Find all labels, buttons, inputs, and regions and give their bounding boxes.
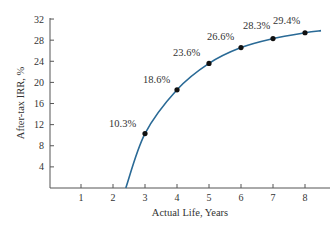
x-tick-label: 4 bbox=[175, 192, 180, 203]
y-tick-label: 32 bbox=[34, 14, 44, 25]
y-tick-label: 24 bbox=[34, 56, 44, 67]
y-axis: 48121620242832 bbox=[34, 14, 54, 188]
y-tick-label: 20 bbox=[34, 77, 44, 88]
data-label: 10.3% bbox=[109, 118, 136, 129]
data-point bbox=[142, 131, 147, 136]
chart: 48121620242832 12345678 Actual Life, Yea… bbox=[0, 0, 336, 233]
data-label: 23.6% bbox=[173, 47, 200, 58]
x-tick-label: 7 bbox=[271, 192, 276, 203]
y-tick-label: 16 bbox=[34, 98, 44, 109]
data-label: 29.4% bbox=[273, 15, 300, 26]
data-point bbox=[302, 30, 307, 35]
x-axis: 12345678 bbox=[50, 184, 330, 203]
y-tick-label: 4 bbox=[39, 161, 44, 172]
y-tick-label: 28 bbox=[34, 35, 44, 46]
data-point bbox=[206, 61, 211, 66]
irr-curve bbox=[126, 31, 321, 188]
y-tick-label: 12 bbox=[34, 119, 44, 130]
x-tick-label: 3 bbox=[143, 192, 148, 203]
data-point bbox=[238, 45, 243, 50]
x-axis-title: Actual Life, Years bbox=[152, 207, 228, 218]
x-tick-label: 1 bbox=[79, 192, 84, 203]
y-axis-title: After-tax IRR, % bbox=[15, 67, 26, 140]
y-tick-label: 8 bbox=[39, 140, 44, 151]
data-label: 26.6% bbox=[207, 31, 234, 42]
x-tick-label: 6 bbox=[239, 192, 244, 203]
data-point bbox=[270, 36, 275, 41]
data-label: 18.6% bbox=[143, 74, 170, 85]
x-tick-label: 5 bbox=[207, 192, 212, 203]
data-point bbox=[174, 87, 179, 92]
data-label: 28.3% bbox=[243, 20, 270, 31]
data-labels: 10.3%18.6%23.6%26.6%28.3%29.4% bbox=[109, 15, 300, 129]
x-tick-label: 2 bbox=[111, 192, 116, 203]
x-tick-label: 8 bbox=[303, 192, 308, 203]
